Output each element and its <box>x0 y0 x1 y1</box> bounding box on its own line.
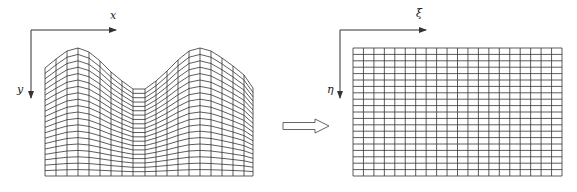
physical-curvilinear-grid <box>45 48 253 176</box>
grid-transformation-diagram <box>0 0 577 192</box>
transform-arrow-icon <box>283 119 329 133</box>
x-axis-label: x <box>110 10 116 21</box>
y-axis-label: y <box>17 84 23 95</box>
hollow-arrow-shape <box>283 119 329 133</box>
computational-rectangular-grid <box>353 48 562 176</box>
eta-axis-label: η <box>327 84 334 95</box>
xi-axis-label: ξ <box>416 8 422 19</box>
